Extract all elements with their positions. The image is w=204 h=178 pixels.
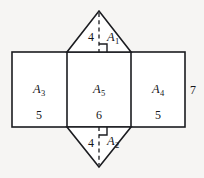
prism-height-label: 7 (190, 84, 196, 96)
left-rectangle-area-label: A3 (33, 83, 45, 96)
middle-rectangle-area-name: A (93, 82, 101, 96)
right-rectangle-area-subscript: 4 (160, 87, 164, 97)
bottom-triangle-area-name: A (107, 134, 115, 148)
middle-rectangle-base-label: 6 (96, 109, 102, 121)
middle-rectangle-area-subscript: 5 (101, 87, 105, 97)
prism-net-figure: 4 A1 A3 5 A5 6 A4 5 7 4 A2 (0, 0, 204, 178)
top-triangle-height-label: 4 (88, 31, 94, 43)
top-triangle-outline (67, 11, 131, 52)
bottom-triangle-area-label: A2 (107, 135, 119, 148)
top-triangle-area-label: A1 (107, 31, 119, 44)
right-rectangle-base-label: 5 (155, 109, 161, 121)
left-rectangle-area-subscript: 3 (41, 87, 45, 97)
bottom-triangle-height-label: 4 (88, 137, 94, 149)
bottom-triangle-area-subscript: 2 (115, 139, 119, 149)
right-rectangle-area-label: A4 (152, 83, 164, 96)
right-rectangle-area-name: A (152, 82, 160, 96)
top-triangle-area-subscript: 1 (115, 35, 119, 45)
left-rectangle-base-label: 5 (36, 109, 42, 121)
top-triangle-area-name: A (107, 30, 115, 44)
middle-rectangle-area-label: A5 (93, 83, 105, 96)
left-rectangle-area-name: A (33, 82, 41, 96)
bottom-triangle-outline (67, 127, 131, 167)
